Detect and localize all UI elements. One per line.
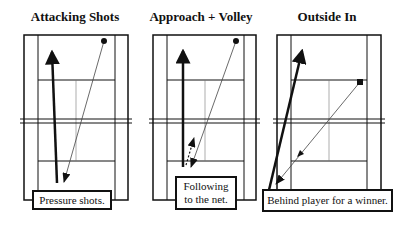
court-outside-in	[269, 35, 385, 200]
thick-shot-arrow	[52, 52, 57, 183]
ball-icon	[101, 38, 107, 44]
label-text: Pressure shots.	[39, 194, 104, 207]
opponent-shot-arrow	[276, 82, 360, 184]
label-following-to-net: Following to the net.	[175, 176, 237, 210]
ball-icon	[357, 79, 363, 85]
opponent-shot-arrow	[191, 41, 236, 167]
court-attacking-shots	[20, 35, 132, 200]
ball-icon	[233, 38, 239, 44]
label-pressure-shots: Pressure shots.	[32, 190, 112, 210]
label-text-line1: Following	[183, 180, 228, 193]
label-text: Behind player for a winner.	[267, 194, 388, 207]
label-text-line2: to the net.	[184, 193, 228, 206]
label-behind-player: Behind player for a winner.	[262, 189, 393, 212]
thick-shot-arrow	[269, 51, 302, 190]
